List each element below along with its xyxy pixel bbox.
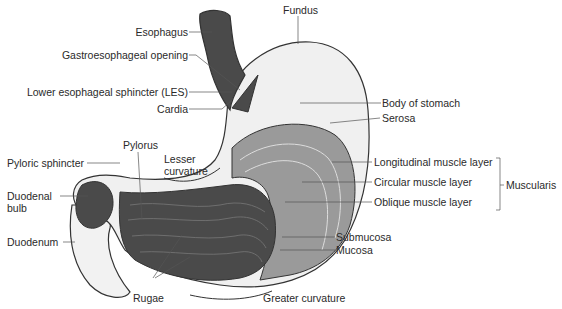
label-duodenal-line2: bulb <box>7 202 27 214</box>
label-mucosa: Mucosa <box>336 244 373 256</box>
label-longitudinal-muscle: Longitudinal muscle layer <box>374 156 492 168</box>
label-pyloric-sphincter: Pyloric sphincter <box>7 157 84 169</box>
label-greater-curvature: Greater curvature <box>263 292 345 304</box>
label-duodenum: Duodenum <box>7 236 58 248</box>
label-body-of-stomach: Body of stomach <box>382 97 460 109</box>
label-les: Lower esophageal sphincter (LES) <box>27 86 188 98</box>
label-gastroesophageal-opening: Gastroesophageal opening <box>62 49 188 61</box>
label-duodenal-bulb: Duodenalbulb <box>7 190 52 214</box>
label-pylorus: Pylorus <box>123 139 158 151</box>
label-oblique-muscle: Oblique muscle layer <box>374 196 472 208</box>
label-serosa: Serosa <box>382 112 415 124</box>
label-cardia: Cardia <box>157 103 188 115</box>
label-fundus: Fundus <box>283 4 318 16</box>
label-lesser-line1: Lesser <box>164 153 196 165</box>
label-circular-muscle: Circular muscle layer <box>374 176 472 188</box>
label-rugae: Rugae <box>133 292 164 304</box>
stomach-diagram <box>0 0 562 309</box>
label-lesser-curvature: Lessercurvature <box>164 153 208 177</box>
label-esophagus: Esophagus <box>135 26 188 38</box>
label-muscularis: Muscularis <box>506 179 556 191</box>
mucosa-interior <box>119 185 275 281</box>
label-submucosa: Submucosa <box>336 231 391 243</box>
label-lesser-line2: curvature <box>164 165 208 177</box>
greater-curvature-arc <box>190 291 272 299</box>
label-duodenal-line1: Duodenal <box>7 190 52 202</box>
